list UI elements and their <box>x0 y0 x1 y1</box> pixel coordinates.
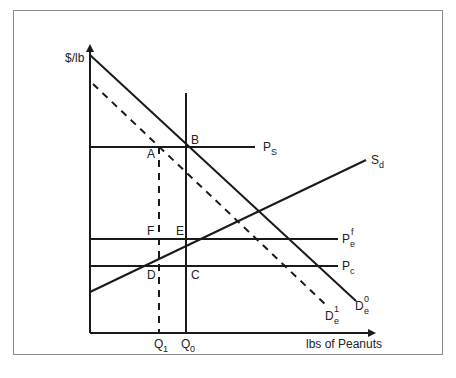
peanut-market-diagram: $/lb lbs of Peanuts A B F E D C P S S d … <box>0 0 456 378</box>
svg-text:1: 1 <box>163 344 168 354</box>
demand-curve-de0 <box>90 55 356 301</box>
svg-text:P: P <box>342 259 350 273</box>
svg-text:1: 1 <box>334 304 339 314</box>
point-label-f: F <box>147 224 154 238</box>
svg-text:c: c <box>350 266 355 276</box>
svg-text:e: e <box>334 316 339 326</box>
svg-text:P: P <box>263 140 271 154</box>
label-pef: P e f <box>342 227 355 249</box>
svg-text:D: D <box>325 309 334 323</box>
point-label-a: A <box>147 147 155 161</box>
svg-text:D: D <box>355 299 364 313</box>
label-de0: D e 0 <box>355 294 369 316</box>
svg-text:d: d <box>379 160 384 170</box>
y-axis-label: $/lb <box>65 51 85 65</box>
label-de1: D e 1 <box>325 304 339 326</box>
point-label-c: C <box>191 268 200 282</box>
label-sd: S d <box>371 153 384 170</box>
demand-curve-de1 <box>93 84 326 305</box>
svg-text:e: e <box>364 306 369 316</box>
svg-text:f: f <box>351 227 354 237</box>
svg-text:Q: Q <box>181 337 190 351</box>
svg-text:S: S <box>371 153 379 167</box>
label-q1: Q 1 <box>154 337 168 354</box>
svg-text:e: e <box>350 239 355 249</box>
svg-text:P: P <box>342 232 350 246</box>
label-pc: P c <box>342 259 355 276</box>
svg-text:Q: Q <box>154 337 163 351</box>
label-q0: Q 0 <box>181 337 195 354</box>
point-label-b: B <box>191 133 199 147</box>
point-label-e: E <box>176 224 184 238</box>
svg-text:S: S <box>271 147 277 157</box>
label-ps: P S <box>263 140 277 157</box>
point-label-d: D <box>147 268 156 282</box>
x-axis-label: lbs of Peanuts <box>306 337 382 351</box>
svg-text:0: 0 <box>190 344 195 354</box>
svg-text:0: 0 <box>364 294 369 304</box>
